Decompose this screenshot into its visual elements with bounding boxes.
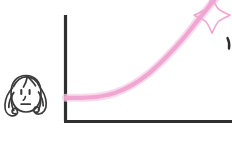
character-sketch-layer xyxy=(0,0,232,147)
woman-face-sketch xyxy=(5,76,46,116)
bangs-part-line xyxy=(24,76,28,87)
nose xyxy=(23,97,25,101)
sketch-illustration-canvas: Sketch of a woman beside a rising pink g… xyxy=(0,0,232,147)
